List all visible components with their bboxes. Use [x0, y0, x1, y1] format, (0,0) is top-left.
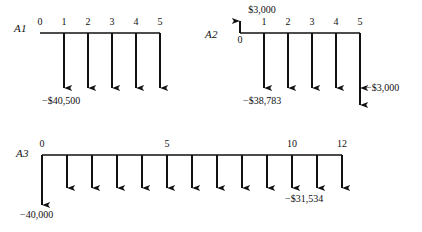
a2-series-label: A2 — [205, 28, 218, 40]
a1-diagram — [40, 33, 160, 88]
a3-initial-outflow-amount-label: −40,000 — [20, 209, 53, 220]
a1-series-label: A1 — [14, 22, 27, 34]
a3-tick-label-10: 10 — [287, 138, 297, 149]
a1-tick-label-4: 4 — [134, 16, 139, 27]
a2-tick-label-5: 5 — [358, 16, 363, 27]
a3-series-label: A3 — [16, 147, 29, 159]
a2-tick-label-4: 4 — [334, 16, 339, 27]
a2-inflow-amount-label: $3,000 — [248, 4, 276, 15]
a2-tick-label-2: 2 — [286, 16, 291, 27]
a3-tick-label-5: 5 — [165, 138, 170, 149]
a1-tick-label-2: 2 — [86, 16, 91, 27]
a2-tick-label-3: 3 — [310, 16, 315, 27]
a2-outflow-amount-label: −$38,783 — [243, 95, 281, 106]
a2-tick-label-0: 0 — [238, 34, 243, 45]
a2-tick-label-1: 1 — [262, 16, 267, 27]
a1-tick-label-1: 1 — [62, 16, 67, 27]
a1-tick-label-3: 3 — [110, 16, 115, 27]
a1-outflow-amount-label: −$40,500 — [42, 95, 80, 106]
a1-tick-label-5: 5 — [158, 16, 163, 27]
a3-tick-label-12: 12 — [337, 138, 347, 149]
cash-flow-diagram-figure: A1 0 1 2 3 4 5 −$40,500 A2 $3,000 0 1 2 … — [0, 0, 422, 232]
a1-tick-label-0: 0 — [38, 16, 43, 27]
a3-tick-label-0: 0 — [40, 138, 45, 149]
a2-final-outflow-amount-label: −$3,000 — [366, 82, 399, 93]
a2-diagram — [240, 21, 360, 105]
a3-outflow-amount-label: −$31,534 — [285, 193, 323, 204]
